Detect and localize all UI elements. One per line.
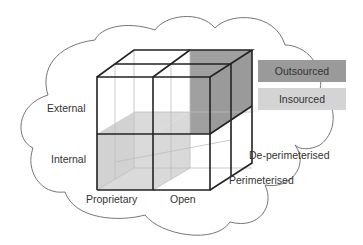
label-de-perimeterised: De-perimeterised (249, 149, 330, 161)
label-proprietary: Proprietary (86, 193, 137, 205)
legend-outsourced-label: Outsourced (275, 65, 329, 77)
legend-insourced: Insourced (258, 88, 346, 110)
label-internal: Internal (51, 153, 86, 165)
label-external: External (47, 102, 86, 114)
label-open: Open (170, 193, 196, 205)
label-perimeterised: Perimeterised (229, 174, 294, 186)
legend-insourced-label: Insourced (279, 93, 325, 105)
legend-outsourced: Outsourced (258, 60, 346, 82)
cloud-cube-diagram (0, 0, 363, 245)
